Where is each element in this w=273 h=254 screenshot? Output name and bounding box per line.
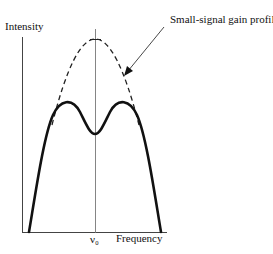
x-axis-label: Frequency	[116, 233, 162, 244]
center-frequency-label: ν₀	[90, 234, 99, 245]
gain-profile-annotation: Small-signal gain profile	[170, 14, 273, 25]
y-axis-label: Intensity	[5, 21, 44, 32]
annotation-arrowhead-icon	[124, 66, 133, 76]
saturated-gain-curve	[29, 102, 161, 232]
annotation-arrow-line	[128, 27, 164, 71]
gain-profile-diagram	[0, 0, 273, 254]
